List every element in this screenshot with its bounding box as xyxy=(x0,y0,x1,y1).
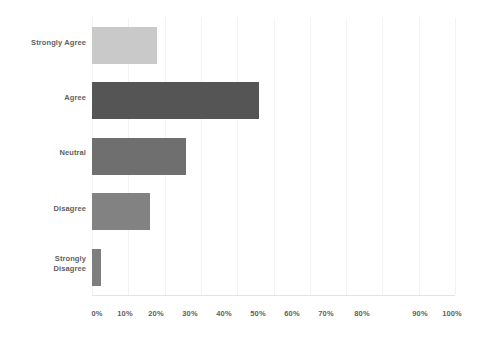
horizontal-bar-chart: Strongly Agree Agree Neutral Disagree St… xyxy=(0,0,496,341)
x-tick-70: 70% xyxy=(318,309,333,318)
bar-strongly-agree[interactable] xyxy=(92,27,157,64)
bar-disagree[interactable] xyxy=(92,193,150,230)
x-tick-0: 0% xyxy=(91,309,102,318)
y-label-text: Strongly Agree xyxy=(6,38,86,48)
y-label-text: Agree xyxy=(6,93,86,103)
gridline xyxy=(455,18,456,295)
y-label-text: Disagree xyxy=(6,264,86,274)
x-tick-60: 60% xyxy=(284,309,299,318)
y-label-text: Neutral xyxy=(6,148,86,158)
bar-row xyxy=(92,184,455,239)
bar-row xyxy=(92,240,455,295)
y-label-text: Strongly xyxy=(6,254,86,264)
x-tick-50: 50% xyxy=(250,309,265,318)
y-axis-label-disagree: Disagree xyxy=(6,204,86,214)
y-axis-label-strongly-agree: Strongly Agree xyxy=(6,38,86,48)
x-tick-40: 40% xyxy=(216,309,231,318)
x-tick-20: 20% xyxy=(148,309,163,318)
x-tick-100: 100% xyxy=(442,309,462,318)
bar-strongly-disagree[interactable] xyxy=(92,249,101,286)
y-axis-label-neutral: Neutral xyxy=(6,148,86,158)
bar-agree[interactable] xyxy=(92,82,259,119)
y-label-text: Disagree xyxy=(6,204,86,214)
y-axis-label-strongly-disagree: Strongly Disagree xyxy=(6,254,86,273)
x-tick-90: 90% xyxy=(412,309,427,318)
x-tick-10: 10% xyxy=(117,309,132,318)
plot-area xyxy=(92,18,455,295)
bar-row xyxy=(92,129,455,184)
x-tick-30: 30% xyxy=(182,309,197,318)
x-tick-80: 80% xyxy=(354,309,369,318)
bar-row xyxy=(92,73,455,128)
y-axis-label-agree: Agree xyxy=(6,93,86,103)
bar-row xyxy=(92,18,455,73)
x-axis-line xyxy=(92,295,455,296)
bar-neutral[interactable] xyxy=(92,138,186,175)
